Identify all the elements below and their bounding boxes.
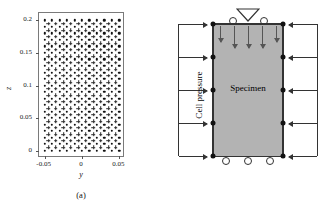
integration-point-marker [54, 35, 58, 39]
mesh-node-point [43, 65, 45, 67]
integration-point-marker [54, 132, 58, 136]
mesh-node-point [88, 58, 90, 60]
roller-support-top [229, 17, 237, 25]
integration-point-marker [62, 93, 66, 97]
mesh-node-point [81, 123, 83, 125]
mesh-node-point [96, 39, 98, 41]
mesh-node-point [43, 45, 45, 47]
integration-point-marker [54, 41, 58, 45]
integration-point-marker [62, 139, 66, 143]
integration-point-marker [106, 67, 110, 71]
integration-point-marker [76, 87, 80, 91]
mesh-node-point [73, 117, 75, 119]
integration-point-marker [76, 41, 80, 45]
integration-point-marker [114, 61, 118, 65]
x-axis-tick [45, 156, 46, 159]
mesh-node-point [81, 52, 83, 54]
integration-point-marker [106, 41, 110, 45]
figure-container: 00.050.10.150.2 -0.0500.05 z y (a) Speci… [0, 0, 331, 210]
integration-point-marker [91, 48, 95, 52]
mesh-node-point [66, 110, 68, 112]
mesh-node-point [88, 130, 90, 132]
mesh-node-point [51, 58, 53, 60]
integration-point-marker [47, 106, 51, 110]
mesh-node-point [111, 71, 113, 73]
integration-point-marker [84, 54, 88, 58]
mesh-node-point [118, 19, 120, 21]
mesh-node-point [96, 32, 98, 34]
integration-point-marker [84, 41, 88, 45]
mesh-node-point [103, 32, 105, 34]
mesh-node-point [81, 143, 83, 145]
mesh-node-point [96, 71, 98, 73]
specimen-label: Specimen [230, 83, 266, 93]
cell-pressure-arrow-left [179, 156, 207, 157]
mesh-node-point [58, 104, 60, 106]
mesh-node-point [58, 26, 60, 28]
integration-point-marker [47, 113, 51, 117]
integration-point-marker [84, 67, 88, 71]
x-axis-tick [82, 156, 83, 159]
integration-point-marker [91, 100, 95, 104]
mesh-node-point [96, 97, 98, 99]
integration-point-marker [47, 35, 51, 39]
integration-point-marker [106, 139, 110, 143]
mesh-node-point [111, 149, 113, 151]
integration-point-marker [114, 48, 118, 52]
mesh-node-point [118, 143, 120, 145]
cell-pressure-arrow-right [289, 156, 317, 157]
integration-point-marker [76, 145, 80, 149]
mesh-node-point [88, 110, 90, 112]
mesh-node-point [51, 136, 53, 138]
mesh-node-point [88, 39, 90, 41]
integration-point-marker [54, 22, 58, 26]
mesh-node-point [51, 78, 53, 80]
integration-point-marker [62, 48, 66, 52]
boundary-node-right [281, 121, 286, 126]
mesh-node-point [81, 45, 83, 47]
integration-point-marker [62, 100, 66, 104]
mesh-node-point [58, 110, 60, 112]
mesh-node-point [73, 32, 75, 34]
integration-point-marker [106, 54, 110, 58]
mesh-node-layer [39, 13, 123, 156]
mesh-node-point [58, 143, 60, 145]
mesh-node-point [103, 71, 105, 73]
integration-point-marker [84, 119, 88, 123]
boundary-node-left [211, 154, 216, 159]
mesh-node-point [73, 45, 75, 47]
mesh-node-point [81, 110, 83, 112]
integration-point-marker [62, 35, 66, 39]
mesh-node-point [73, 104, 75, 106]
y-axis-tick [36, 86, 39, 87]
integration-point-marker [47, 74, 51, 78]
integration-point-marker [99, 41, 103, 45]
integration-point-marker [62, 22, 66, 26]
mesh-node-point [103, 58, 105, 60]
integration-point-marker [62, 106, 66, 110]
mesh-node-point [58, 136, 60, 138]
integration-point-marker [69, 80, 73, 84]
integration-point-marker [99, 54, 103, 58]
mesh-node-point [66, 32, 68, 34]
boundary-node-right [281, 154, 286, 159]
integration-point-marker [114, 106, 118, 110]
mesh-node-point [111, 39, 113, 41]
integration-point-marker [69, 48, 73, 52]
integration-point-marker [91, 126, 95, 130]
mesh-node-point [88, 91, 90, 93]
integration-point-marker [54, 28, 58, 32]
x-axis-tick-label: 0.05 [112, 160, 124, 168]
integration-point-marker [76, 80, 80, 84]
integration-point-marker [54, 87, 58, 91]
mesh-node-point [43, 58, 45, 60]
mesh-node-point [43, 104, 45, 106]
axial-load-arrow [220, 26, 221, 42]
integration-point-marker [99, 139, 103, 143]
integration-point-marker [76, 139, 80, 143]
mesh-node-point [51, 19, 53, 21]
mesh-node-point [96, 91, 98, 93]
mesh-node-point [43, 52, 45, 54]
integration-point-marker [91, 41, 95, 45]
mesh-node-point [118, 78, 120, 80]
